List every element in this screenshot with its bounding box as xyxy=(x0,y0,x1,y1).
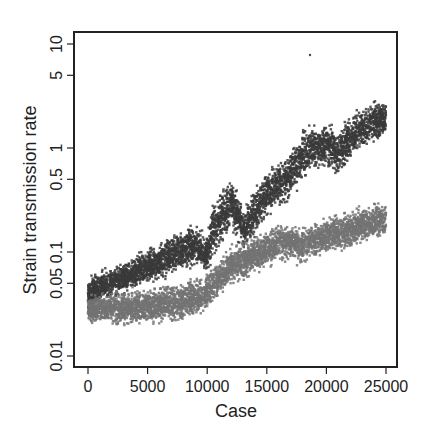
x-tick-label: 15000 xyxy=(245,378,290,395)
y-axis: 0.010.050.10.51510 xyxy=(48,35,74,372)
plot-area xyxy=(87,54,387,327)
y-tick-label: 0.01 xyxy=(48,340,65,371)
y-axis-title: Strain transmission rate xyxy=(20,105,40,294)
series-dark xyxy=(87,100,387,310)
y-tick-label: 5 xyxy=(48,71,65,80)
x-tick-label: 5000 xyxy=(130,378,166,395)
x-axis: 0500010000150002000025000 xyxy=(84,368,409,395)
y-tick-label: 0.5 xyxy=(48,168,65,190)
y-tick-label: 10 xyxy=(48,35,65,53)
stray-point xyxy=(309,54,311,56)
y-tick-label: 0.1 xyxy=(48,241,65,263)
x-tick-label: 0 xyxy=(84,378,93,395)
scatter-chart: 0500010000150002000025000 0.010.050.10.5… xyxy=(0,0,434,439)
x-tick-label: 25000 xyxy=(364,378,409,395)
y-tick-label: 0.05 xyxy=(48,268,65,299)
x-tick-label: 20000 xyxy=(304,378,349,395)
x-tick-label: 10000 xyxy=(185,378,230,395)
x-axis-title: Case xyxy=(215,401,257,421)
y-tick-label: 1 xyxy=(48,143,65,152)
